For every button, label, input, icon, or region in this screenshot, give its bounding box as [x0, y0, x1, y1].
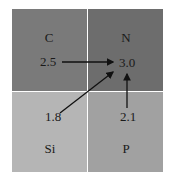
value-c-label: 2.5: [40, 54, 56, 70]
element-c-label: C: [45, 30, 54, 46]
element-p-label: P: [122, 141, 129, 157]
element-n-label: N: [121, 30, 130, 46]
element-si-label: Si: [45, 141, 56, 157]
arrow-si-to-n: [60, 72, 113, 113]
value-p-label: 2.1: [120, 109, 136, 125]
value-si-label: 1.8: [45, 109, 61, 125]
arrows-layer: [0, 0, 173, 182]
value-n-label: 3.0: [119, 55, 135, 71]
